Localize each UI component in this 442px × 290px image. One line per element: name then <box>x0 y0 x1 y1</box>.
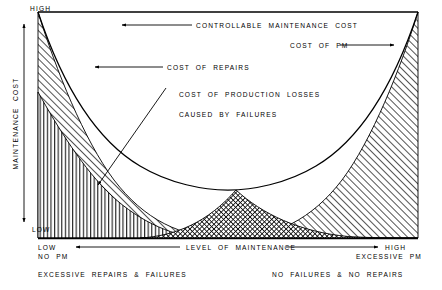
y-axis-title: MAINTENANCE COST <box>12 76 19 172</box>
footer-left: EXCESSIVE REPAIRS & FAILURES <box>38 270 187 280</box>
production-losses-line-2: CAUSED BY FAILURES <box>179 111 277 118</box>
annotation-cost-of-repairs: COST OF REPAIRS <box>167 63 250 73</box>
x-axis-title: LEVEL OF MAINTENANCE <box>186 243 296 253</box>
maintenance-cost-diagram: MAINTENANCE COST HIGH LOW CONTROLLABLE M… <box>0 0 442 290</box>
y-axis-low-label: LOW <box>32 225 50 235</box>
footer-right: NO FAILURES & NO REPAIRS <box>272 270 403 280</box>
y-axis-high-label: HIGH <box>30 4 51 14</box>
leader-production-losses <box>98 88 166 185</box>
annotation-cost-of-pm: COST OF PM <box>290 41 348 51</box>
x-axis-excessive-pm-label: EXCESSIVE PM <box>356 252 422 262</box>
annotation-production-losses: COST OF PRODUCTION LOSSES CAUSED BY FAIL… <box>167 80 320 129</box>
annotation-controllable-maintenance-cost: CONTROLLABLE MAINTENANCE COST <box>196 21 358 31</box>
production-losses-line-1: COST OF PRODUCTION LOSSES <box>179 91 320 98</box>
x-axis-no-pm-label: NO PM <box>38 252 68 262</box>
